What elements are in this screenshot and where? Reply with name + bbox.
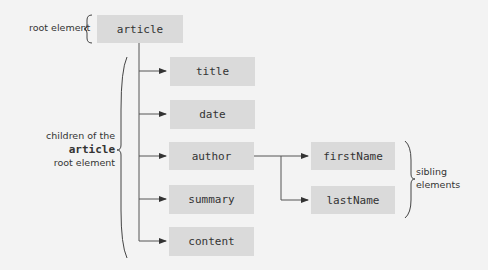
node-article-label: article: [117, 23, 163, 36]
node-title-label: title: [196, 65, 229, 78]
node-summary-label: summary: [188, 193, 234, 206]
node-firstName-label: firstName: [323, 150, 383, 163]
siblings-annotation-line2: elements: [416, 179, 460, 190]
node-date-label: date: [199, 108, 226, 121]
node-content: content: [169, 227, 254, 256]
node-author-label: author: [192, 150, 232, 163]
children-annotation-line1: children of the: [46, 130, 115, 141]
node-author: author: [169, 142, 254, 170]
root-element-annotation: root element: [29, 22, 90, 33]
node-title: title: [170, 57, 255, 86]
children-annotation-line2: article: [69, 143, 115, 156]
siblings-annotation-line1: sibling: [416, 166, 447, 177]
children-annotation-line3: root element: [54, 157, 115, 168]
node-content-label: content: [188, 235, 234, 248]
node-firstName: firstName: [311, 142, 395, 170]
node-summary: summary: [169, 185, 254, 214]
node-article: article: [97, 15, 183, 43]
node-lastName: lastName: [311, 186, 395, 214]
node-lastName-label: lastName: [327, 194, 380, 207]
node-date: date: [170, 100, 255, 129]
